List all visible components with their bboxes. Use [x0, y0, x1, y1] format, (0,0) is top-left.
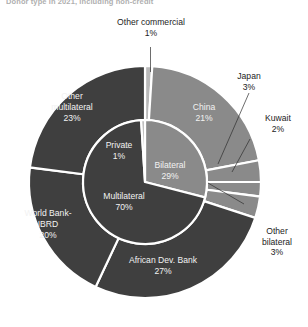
label-china-value: 21%: [195, 113, 213, 123]
label-world-bank-ibrd-value: 20%: [39, 230, 57, 240]
label-private-name: Private: [106, 140, 133, 150]
label-african-dev-bank-value: 27%: [154, 266, 172, 276]
label-other-multilateral-name2: multilateral: [51, 102, 93, 112]
label-private-value: 1%: [113, 151, 126, 161]
nested-donut-chart: China 21% African Dev. Bank 27% World Ba…: [0, 0, 308, 327]
label-bilateral-value: 29%: [161, 171, 179, 181]
label-world-bank-ibrd-name2: IBRD: [38, 219, 59, 229]
label-china-name: China: [193, 102, 216, 112]
label-other-multilateral-value: 23%: [63, 113, 81, 123]
label-world-bank-ibrd-name1: World Bank-: [24, 208, 71, 218]
label-multilateral-name: Multilateral: [103, 191, 145, 201]
label-other-multilateral-name1: Other: [61, 91, 83, 101]
chart-canvas: Donor type in 2021, including non-credit: [0, 0, 308, 327]
inner-ring: [83, 120, 207, 244]
callout-japan: Japan 3%: [224, 71, 274, 92]
callout-kuwait: Kuwait 2%: [252, 113, 304, 134]
label-multilateral-value: 70%: [115, 202, 133, 212]
label-bilateral-name: Bilateral: [154, 160, 185, 170]
callout-other-bilateral: Other bilateral 3%: [250, 226, 304, 258]
label-african-dev-bank-name: African Dev. Bank: [129, 255, 198, 265]
callout-other-commercial: Other commercial 1%: [97, 17, 205, 38]
